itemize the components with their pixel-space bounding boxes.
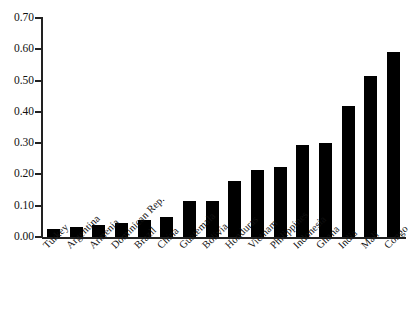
y-tick-label: 0.40 <box>1 106 34 118</box>
y-tick-mark <box>35 48 42 50</box>
y-tick-mark <box>35 111 42 113</box>
y-tick-label-wrap: 0.40 <box>0 106 34 118</box>
bar <box>364 76 377 237</box>
bar-chart: 0.000.100.200.300.400.500.600.70 TurkeyA… <box>0 0 413 325</box>
y-tick-label: 0.60 <box>1 43 34 55</box>
y-tick-label-wrap: 0.30 <box>0 137 34 149</box>
y-tick-label-wrap: 0.50 <box>0 75 34 87</box>
y-tick-label: 0.30 <box>1 137 34 149</box>
y-tick-label: 0.10 <box>1 200 34 212</box>
bars-layer <box>42 18 405 237</box>
y-tick-mark <box>35 142 42 144</box>
y-tick-mark <box>35 236 42 238</box>
x-axis-labels: TurkeyArgentinaArmeniaDominican Rep.Braz… <box>0 239 413 325</box>
y-tick-mark <box>35 80 42 82</box>
y-tick-mark <box>35 173 42 175</box>
y-tick-label: 0.70 <box>1 12 34 24</box>
y-tick-label-wrap: 0.70 <box>0 12 34 24</box>
y-tick-label-wrap: 0.10 <box>0 200 34 212</box>
y-tick-mark <box>35 17 42 19</box>
bar <box>342 106 355 237</box>
y-tick-label-wrap: 0.60 <box>0 43 34 55</box>
y-tick-label: 0.20 <box>1 168 34 180</box>
y-tick-label-wrap: 0.20 <box>0 168 34 180</box>
y-tick-mark <box>35 205 42 207</box>
y-tick-label: 0.50 <box>1 75 34 87</box>
bar <box>387 52 400 237</box>
